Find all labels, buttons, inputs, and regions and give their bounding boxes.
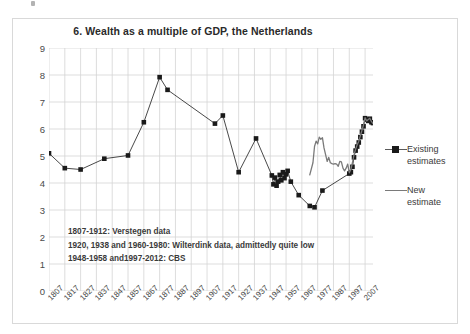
chart-annotations: 1807-1912: Verstegen data1920, 1938 and …	[68, 225, 314, 266]
legend-item-existing-estimates: Existing estimates	[385, 144, 457, 167]
y-axis-tick-label: 0	[27, 286, 45, 297]
y-axis-tick-label: 9	[27, 43, 45, 54]
y-axis-tick-label: 5	[27, 151, 45, 162]
y-axis-tick-label: 7	[27, 97, 45, 108]
y-axis-tick-label: 8	[27, 70, 45, 81]
y-axis-tick-label: 6	[27, 124, 45, 135]
annotation-line: 1807-1912: Verstegen data	[68, 225, 314, 239]
legend-marker-new-icon	[385, 185, 407, 197]
legend-label-new: New estimate	[407, 185, 457, 208]
page-artifact	[31, 1, 35, 6]
annotation-line: 1948-1958 and1997-2012: CBS	[68, 252, 314, 266]
y-axis-tick-label: 1	[27, 259, 45, 270]
y-axis-tick-label: 2	[27, 232, 45, 243]
y-axis-tick-label: 4	[27, 178, 45, 189]
y-axis-tick-label: 3	[27, 205, 45, 216]
legend-label-existing: Existing estimates	[407, 144, 446, 167]
chart-legend: Existing estimates New estimate	[385, 144, 457, 226]
legend-item-new-estimate: New estimate	[385, 185, 457, 208]
chart-title: 6. Wealth as a multiple of GDP, the Neth…	[13, 25, 373, 37]
annotation-line: 1920, 1938 and 1960-1980: Wilterdink dat…	[68, 239, 314, 253]
legend-marker-existing-icon	[385, 144, 407, 156]
chart-container: 6. Wealth as a multiple of GDP, the Neth…	[12, 18, 458, 324]
